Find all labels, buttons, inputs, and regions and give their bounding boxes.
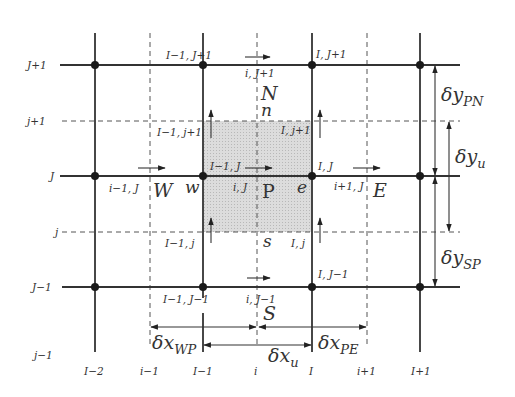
label-dy-u: δyu: [455, 145, 486, 171]
label-I-j: I, j: [290, 237, 306, 249]
label-dx-u: δxu: [268, 344, 299, 370]
row-label-j-1: j−1: [32, 349, 53, 361]
label-I-1-J-1: I−1, J−1: [162, 293, 209, 305]
row-label-J+1: J+1: [25, 59, 47, 71]
col-label-i: i: [254, 365, 257, 377]
label-i-1-J: i−1, J: [109, 182, 140, 194]
col-label-i-1: i−1: [140, 365, 159, 377]
label-dy-sp: δySP: [441, 246, 481, 272]
label-e: e: [297, 177, 307, 197]
label-I-1-j: I−1, j: [164, 237, 195, 249]
row-label-j: j: [53, 226, 59, 238]
label-P: P: [262, 180, 275, 202]
label-I-J: I, J: [317, 160, 334, 172]
label-dx-pe: δxPE: [318, 331, 359, 357]
label-I-J-1: I, J−1: [317, 268, 349, 280]
label-I-1-J+1: I−1, J+1: [165, 49, 212, 61]
label-I-1-j+1: I−1, j+1: [156, 126, 202, 138]
label-S: S: [263, 302, 276, 324]
column-labels: I−2 i−1 I−1 i I i+1 I+1: [83, 365, 431, 377]
row-label-J: J: [48, 170, 55, 182]
row-label-j+1: j+1: [25, 115, 46, 127]
label-n: n: [261, 100, 272, 120]
label-E: E: [372, 179, 387, 201]
label-dy-pn: δyPN: [441, 83, 484, 109]
label-I-J+1: I, J+1: [315, 48, 347, 60]
staggered-grid-diagram: J+1 j+1 J j J−1 j−1 I−2 i−1 I−1 i I i+1 …: [0, 0, 515, 397]
col-label-i+1: i+1: [357, 365, 376, 377]
label-i-J+1: i, J+1: [245, 67, 275, 79]
label-w: w: [185, 177, 200, 197]
label-I-1-J: I−1, J: [209, 160, 241, 172]
label-I-j+1: I, j+1: [280, 124, 311, 136]
col-label-I-1: I−1: [192, 365, 213, 377]
label-s: s: [263, 231, 272, 251]
col-label-I: I: [308, 365, 314, 377]
row-label-J-1: J−1: [30, 281, 52, 293]
label-W: W: [153, 179, 174, 201]
label-dx-wp: δxWP: [152, 331, 197, 357]
col-label-I+1: I+1: [410, 365, 431, 377]
label-i+1-J: i+1, J: [334, 180, 365, 192]
col-label-I-2: I−2: [83, 365, 104, 377]
row-labels: J+1 j+1 J j J−1 j−1: [25, 59, 59, 361]
label-i-J: i, J: [233, 181, 248, 193]
